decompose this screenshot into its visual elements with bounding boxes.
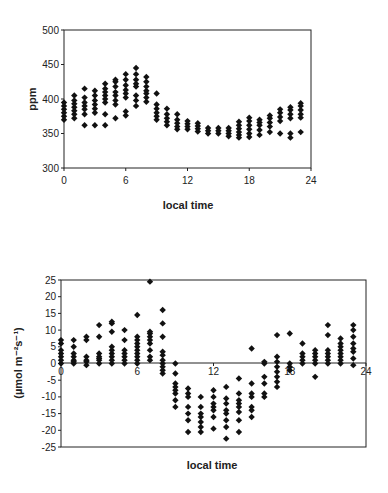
x-tick-label: 6 [134, 366, 140, 377]
data-point-diamond [71, 350, 77, 356]
data-point-diamond [134, 312, 140, 318]
data-point-diamond [236, 390, 242, 396]
x-tick-label: 0 [58, 366, 64, 377]
data-point-diamond [185, 410, 191, 416]
data-point-diamond [210, 400, 216, 406]
data-point-diamond [277, 130, 283, 136]
x-tick-label: 24 [305, 175, 317, 186]
data-point-diamond [174, 117, 180, 123]
data-point-diamond [236, 397, 242, 403]
bottom-chart: -25-20-15-10-50510152025 06121824 (µmol … [12, 275, 372, 472]
data-point-diamond [58, 347, 64, 353]
x-tick-label: 0 [61, 175, 67, 186]
data-point-diamond [159, 349, 165, 355]
bottom-y-axis-title: (µmol m⁻²s⁻¹) [12, 327, 24, 399]
data-point-diamond [337, 335, 343, 341]
data-point-diamond [267, 129, 273, 135]
y-tick-label: -15 [42, 408, 57, 419]
data-point-diamond [96, 334, 102, 340]
data-point-diamond [112, 89, 118, 95]
data-point-diamond [83, 334, 89, 340]
data-point-diamond [147, 278, 153, 284]
y-tick-label: 10 [45, 325, 57, 336]
data-point-diamond [164, 111, 170, 117]
data-point-diamond [299, 350, 305, 356]
data-point-diamond [58, 337, 64, 343]
data-point-diamond [81, 94, 87, 100]
data-point-diamond [123, 82, 129, 88]
data-point-diamond [102, 111, 108, 117]
data-point-diamond [143, 74, 149, 80]
data-point-diamond [133, 103, 139, 109]
top-scatter-points [61, 65, 304, 141]
y-tick-label: 500 [42, 25, 59, 36]
x-tick-label: 24 [360, 366, 372, 377]
data-point-diamond [223, 407, 229, 413]
data-point-diamond [312, 347, 318, 353]
data-point-diamond [71, 92, 77, 98]
data-point-diamond [159, 320, 165, 326]
data-point-diamond [350, 334, 356, 340]
data-point-diamond [121, 337, 127, 343]
y-tick-label: 350 [42, 128, 59, 139]
data-point-diamond [246, 114, 252, 120]
data-point-diamond [172, 380, 178, 386]
data-point-diamond [350, 355, 356, 361]
data-point-diamond [92, 122, 98, 128]
data-point-diamond [298, 129, 304, 135]
data-point-diamond [172, 397, 178, 403]
data-point-diamond [102, 122, 108, 128]
data-point-diamond [164, 105, 170, 111]
y-tick-label: 400 [42, 94, 59, 105]
y-tick-label: 20 [45, 291, 57, 302]
y-tick-label: 0 [50, 358, 56, 369]
data-point-diamond [81, 122, 87, 128]
bottom-x-axis-title: local time [187, 459, 238, 471]
x-tick-label: 12 [208, 366, 220, 377]
data-point-diamond [236, 417, 242, 423]
top-chart: 300350400450500 06121824 ppm local time [26, 25, 317, 212]
data-point-diamond [198, 404, 204, 410]
data-point-diamond [185, 385, 191, 391]
data-point-diamond [96, 350, 102, 356]
data-point-diamond [121, 347, 127, 353]
data-point-diamond [153, 101, 159, 107]
data-point-diamond [61, 99, 67, 105]
data-point-diamond [287, 330, 293, 336]
data-point-diamond [325, 347, 331, 353]
data-point-diamond [248, 404, 254, 410]
data-point-diamond [147, 354, 153, 360]
data-point-diamond [133, 92, 139, 98]
figure-canvas: 300350400450500 06121824 ppm local time … [0, 0, 388, 493]
data-point-diamond [350, 340, 356, 346]
data-point-diamond [159, 334, 165, 340]
data-point-diamond [236, 375, 242, 381]
data-point-diamond [198, 410, 204, 416]
data-point-diamond [133, 71, 139, 77]
data-point-diamond [261, 390, 267, 396]
data-point-diamond [210, 394, 216, 400]
data-point-diamond [109, 344, 115, 350]
data-point-diamond [172, 360, 178, 366]
data-point-diamond [248, 345, 254, 351]
data-point-diamond [112, 115, 118, 121]
y-tick-label: -10 [42, 391, 57, 402]
data-point-diamond [92, 88, 98, 94]
y-tick-label: 15 [45, 308, 57, 319]
data-point-diamond [210, 387, 216, 393]
data-point-diamond [133, 65, 139, 71]
data-point-diamond [121, 327, 127, 333]
y-tick-label: 5 [50, 341, 56, 352]
data-point-diamond [261, 374, 267, 380]
data-point-diamond [350, 322, 356, 328]
data-point-diamond [123, 76, 129, 82]
data-point-diamond [223, 435, 229, 441]
data-point-diamond [71, 337, 77, 343]
y-tick-label: -20 [42, 425, 57, 436]
data-point-diamond [325, 332, 331, 338]
data-point-diamond [83, 354, 89, 360]
bottom-x-axis: 06121824 [58, 363, 372, 377]
data-point-diamond [223, 424, 229, 430]
data-point-diamond [109, 329, 115, 335]
data-point-diamond [248, 414, 254, 420]
